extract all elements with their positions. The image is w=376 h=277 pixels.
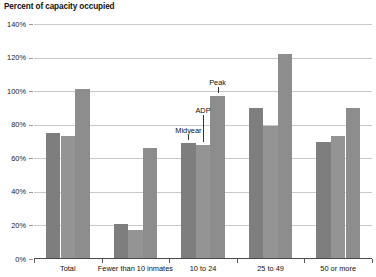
series-annotation-leader-line [188,135,189,140]
bar [181,143,196,259]
y-axis-tick-mark [29,158,33,159]
x-axis-tick-mark [102,259,103,263]
bar [210,96,225,259]
y-axis-tick-label: 60% [0,154,26,163]
series-annotation-label: Midyear [175,126,201,135]
x-axis-baseline [34,258,372,259]
y-axis-tick-mark [29,225,33,226]
bar [331,136,346,259]
x-axis-category-label: Total [60,264,76,273]
bar [196,145,211,259]
bar [263,126,278,259]
y-axis-tick-label: 0% [0,255,26,264]
bar [46,133,61,259]
series-annotation-label: ADP [195,106,210,115]
y-axis-tick-label: 40% [0,187,26,196]
bar [316,142,331,260]
x-axis-tick-mark [34,259,35,263]
series-annotation-label: Peak [209,78,226,87]
x-axis-tick-mark [304,259,305,263]
y-axis-tick-mark [29,259,33,260]
capacity-occupied-bar-chart: Percent of capacity occupied 0%20%40%60%… [0,0,376,277]
gridline-120% [34,58,372,59]
bar [249,108,264,259]
bar [143,148,158,259]
y-axis-tick-label: 100% [0,87,26,96]
x-axis-tick-mark [237,259,238,263]
y-axis-tick-mark [29,91,33,92]
gridline-140% [34,24,372,25]
bar [61,136,76,259]
x-axis-category-label: 50 or more [320,264,356,273]
bar [346,108,361,259]
chart-title: Percent of capacity occupied [4,2,115,11]
y-axis-tick-label: 140% [0,20,26,29]
bar [128,230,143,259]
x-axis-category-label: 10 to 24 [190,264,217,273]
bar [114,224,129,259]
series-annotation-leader-line [218,87,219,93]
y-axis-tick-mark [29,125,33,126]
y-axis-tick-label: 80% [0,120,26,129]
series-annotation-leader-line [203,115,204,142]
x-axis-tick-mark [372,259,373,263]
y-axis-tick-mark [29,24,33,25]
x-axis-category-label: 25 to 49 [257,264,284,273]
x-axis-tick-mark [169,259,170,263]
y-axis-tick-label: 20% [0,221,26,230]
y-axis-tick-mark [29,192,33,193]
y-axis-tick-label: 120% [0,53,26,62]
bar [278,54,293,259]
y-axis-tick-mark [29,58,33,59]
bar [75,89,90,259]
x-axis-category-label: Fewer than 10 inmates [98,264,173,273]
